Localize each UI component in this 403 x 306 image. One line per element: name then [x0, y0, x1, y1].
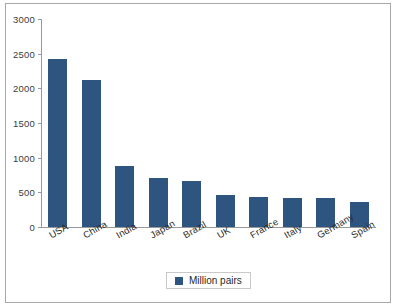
legend-swatch-million-pairs [175, 277, 183, 285]
y-axis-tick-mark [38, 227, 41, 228]
y-axis-tick-label: 3000 [13, 14, 35, 25]
y-axis-tick-mark [38, 88, 41, 89]
y-axis-tick-mark [38, 123, 41, 124]
bar [283, 198, 302, 227]
y-axis-tick-mark [38, 54, 41, 55]
y-axis-tick-label: 1500 [13, 118, 35, 129]
y-axis-tick-label: 1000 [13, 152, 35, 163]
bar [115, 166, 134, 227]
y-axis-tick-mark [38, 158, 41, 159]
plot-area: 050010001500200025003000 USAChinaIndiaJa… [41, 19, 376, 228]
chart-figure: 050010001500200025003000 USAChinaIndiaJa… [0, 0, 403, 306]
bar [216, 195, 235, 227]
chart-legend: Million pairs [166, 272, 251, 289]
y-axis-tick-label: 2000 [13, 83, 35, 94]
bar [48, 59, 67, 227]
y-axis-tick-label: 2500 [13, 48, 35, 59]
y-axis-tick-label: 500 [19, 187, 35, 198]
bar [82, 80, 101, 227]
y-axis-tick-mark [38, 192, 41, 193]
y-axis-line [41, 19, 42, 228]
y-axis-tick-mark [38, 19, 41, 20]
y-axis-tick-label: 0 [30, 222, 35, 233]
legend-label-million-pairs: Million pairs [189, 275, 242, 286]
